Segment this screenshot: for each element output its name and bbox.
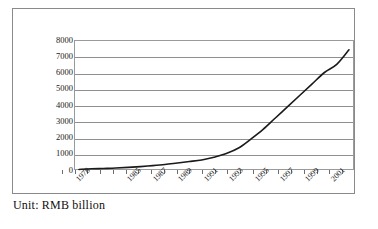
chart-frame: 800070006000500040003000200010000 197819… (12, 8, 355, 194)
data-series-line (74, 40, 354, 170)
unit-caption: Unit: RMB billion (13, 198, 105, 213)
chart-figure: 800070006000500040003000200010000 197819… (0, 0, 378, 229)
